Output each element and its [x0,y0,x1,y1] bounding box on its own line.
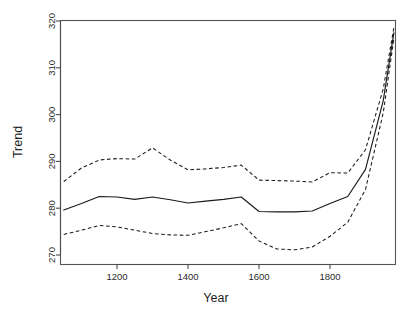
y-axis-tick-label: 300 [46,107,57,123]
chart-figure: 270280290300310320 1200140016001800 Tren… [0,0,413,315]
trend-line-chart: 270280290300310320 1200140016001800 Tren… [0,0,413,315]
data-series-group [64,28,394,250]
x-axis-title: Year [203,291,228,305]
x-axis: 1200140016001800 [106,265,340,282]
y-axis: 270280290300310320 [46,13,60,263]
x-axis-tick-label: 1800 [319,271,340,282]
series-trend [64,33,394,212]
x-axis-tick-label: 1600 [248,271,269,282]
series-lower-confidence-bound [64,38,394,250]
x-axis-tick-label: 1400 [177,271,198,282]
y-axis-tick-label: 310 [46,60,57,76]
plot-frame [61,21,396,265]
y-axis-tick-label: 280 [46,200,57,216]
y-axis-title: Trend [11,126,25,158]
y-axis-tick-label: 270 [46,247,57,263]
x-axis-tick-label: 1200 [106,271,127,282]
y-axis-tick-label: 320 [46,13,57,29]
plot-frame-group [61,21,396,265]
series-upper-confidence-bound [64,28,394,182]
y-axis-tick-label: 290 [46,153,57,169]
